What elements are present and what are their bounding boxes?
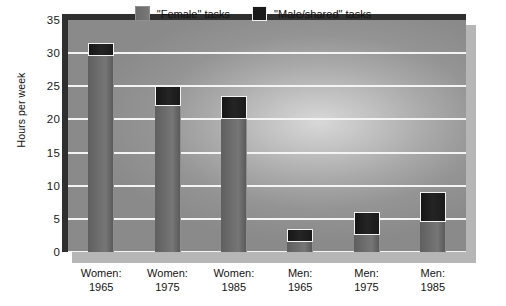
bar-segment-female[interactable] [354, 235, 380, 252]
gridline-10 [68, 185, 466, 187]
x-tick-label-line: 1965 [267, 280, 333, 294]
gridline-25 [68, 85, 466, 87]
x-tick-label: Women:1985 [201, 266, 267, 294]
bar-group[interactable] [420, 20, 446, 252]
x-tick-label: Women:1975 [135, 266, 201, 294]
x-tick-label: Men:1965 [267, 266, 333, 294]
plot-area [68, 20, 466, 252]
bar-segment-male[interactable] [287, 229, 313, 242]
x-tick-label-line: Men: [267, 266, 333, 280]
bar-segment-female[interactable] [88, 56, 114, 252]
bar-chart: 35302520151050 Hours per week Women:1965… [0, 0, 506, 306]
x-axis: Women:1965Women:1975Women:1985Men:1965Me… [68, 266, 466, 304]
gridline-30 [68, 52, 466, 54]
bar-segment-female[interactable] [287, 242, 313, 252]
gridline-15 [68, 152, 466, 154]
x-tick-label-line: Women: [68, 266, 134, 280]
y-tick-label-35: 35 [32, 14, 60, 26]
x-tick-label: Men:1985 [400, 266, 466, 294]
bar-group[interactable] [287, 20, 313, 252]
bar-segment-male[interactable] [420, 192, 446, 222]
gridline-20 [68, 118, 466, 120]
x-tick-label-line: 1985 [201, 280, 267, 294]
bar-segment-male[interactable] [155, 86, 181, 106]
x-tick-label-line: 1985 [400, 280, 466, 294]
bar-segment-female[interactable] [221, 119, 247, 252]
x-tick-label-line: 1975 [334, 280, 400, 294]
gridline-5 [68, 218, 466, 220]
x-tick-label: Men:1975 [334, 266, 400, 294]
bar-segment-male[interactable] [221, 96, 247, 119]
y-tick-label-5: 5 [32, 213, 60, 225]
x-tick-label: Women:1965 [68, 266, 134, 294]
bar-segment-male[interactable] [88, 43, 114, 56]
y-tick-label-25: 25 [32, 80, 60, 92]
bar-group[interactable] [155, 20, 181, 252]
y-tick-label-0: 0 [32, 246, 60, 258]
x-tick-label-line: 1975 [135, 280, 201, 294]
gridline-0 [68, 251, 466, 252]
y-tick-label-30: 30 [32, 47, 60, 59]
x-tick-label-line: Women: [201, 266, 267, 280]
x-tick-label-line: Men: [334, 266, 400, 280]
x-tick-label-line: Men: [400, 266, 466, 280]
x-tick-label-line: Women: [135, 266, 201, 280]
bar-group[interactable] [354, 20, 380, 252]
y-axis: 35302520151050 [22, 20, 60, 252]
y-tick-label-10: 10 [32, 180, 60, 192]
bar-group[interactable] [88, 20, 114, 252]
bar-segment-female[interactable] [420, 222, 446, 252]
bar-segment-male[interactable] [354, 212, 380, 235]
y-axis-title: Hours per week [15, 50, 27, 170]
y-tick-label-20: 20 [32, 113, 60, 125]
x-tick-label-line: 1965 [68, 280, 134, 294]
y-tick-label-15: 15 [32, 147, 60, 159]
bar-segment-female[interactable] [155, 106, 181, 252]
bar-group[interactable] [221, 20, 247, 252]
